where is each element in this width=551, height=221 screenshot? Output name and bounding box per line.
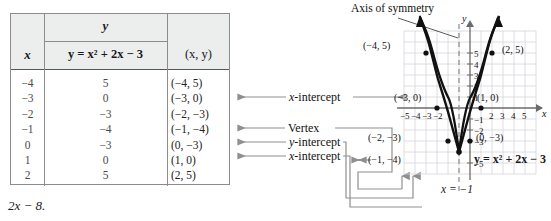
callout-text: Vertex xyxy=(288,121,319,135)
svg-text:−4: −4 xyxy=(411,111,421,121)
parabola-graph: −5 −4 −3 −2 2 3 4 5 5 4 3 2 1 −1 −2 −3 −… xyxy=(350,0,551,221)
point-label-0--3: (0, −3) xyxy=(476,132,503,143)
graph-tick-labels: −5 −4 −3 −2 2 3 4 5 5 4 3 2 1 −1 −2 −3 −… xyxy=(400,49,527,169)
callout-x-intercept-top: x-intercept xyxy=(286,90,343,105)
parabola-arrow-right xyxy=(494,15,503,27)
figure-root: y x y = x² + 2x − 3 (x, y) −4 −3 −2 −1 0… xyxy=(0,0,551,221)
x-axis-label: x xyxy=(541,108,547,119)
point-label--2--3: (−2, −3) xyxy=(368,132,401,143)
svg-text:4: 4 xyxy=(474,60,479,70)
svg-text:3: 3 xyxy=(474,71,479,81)
point-2-5 xyxy=(489,50,494,55)
svg-text:2: 2 xyxy=(474,82,479,92)
svg-text:3: 3 xyxy=(500,111,505,121)
point-label-2-5: (2, 5) xyxy=(502,44,524,55)
svg-text:4: 4 xyxy=(511,111,516,121)
svg-text:5: 5 xyxy=(522,111,527,121)
bottom-formula-fragment: 2x − 8. xyxy=(8,198,45,214)
curve-equation-label: y = x² + 2x − 3 xyxy=(474,152,546,167)
callout-y-intercept: y-intercept xyxy=(286,135,343,150)
point-label-1-0: (1, 0) xyxy=(477,92,499,103)
axis-of-symmetry-equation: x = −1 xyxy=(441,183,473,195)
svg-text:−3: −3 xyxy=(422,111,432,121)
svg-text:−1: −1 xyxy=(474,115,484,125)
point-label--4-5: (−4, 5) xyxy=(363,40,390,51)
y-axis-label: y xyxy=(461,13,467,24)
point-label--3-0: (−3, 0) xyxy=(394,92,421,103)
point-1-0 xyxy=(478,105,483,110)
point--3-0 xyxy=(434,105,439,110)
callout-text: -intercept xyxy=(294,149,340,163)
svg-text:5: 5 xyxy=(474,49,479,59)
callout-x-intercept-bottom: x-intercept xyxy=(286,149,343,164)
parabola-arrow-left xyxy=(416,15,425,27)
svg-text:−5: −5 xyxy=(400,111,410,121)
point-label--1--4: (−1, −4) xyxy=(368,154,401,165)
point--4-5 xyxy=(423,50,428,55)
callout-vertex: Vertex xyxy=(285,121,322,136)
point--2--3 xyxy=(445,138,450,143)
callout-text: -intercept xyxy=(294,135,340,149)
point--1--4-vertex xyxy=(456,149,462,155)
svg-text:−2: −2 xyxy=(433,111,443,121)
point-0--3 xyxy=(467,138,472,143)
svg-text:2: 2 xyxy=(489,111,494,121)
axis-of-symmetry-label: Axis of symmetry xyxy=(351,2,434,14)
callout-text: -intercept xyxy=(294,90,340,104)
